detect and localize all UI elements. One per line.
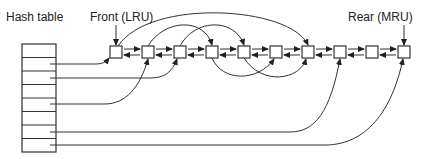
list-node (366, 46, 378, 58)
rear-label: Rear (MRU) (348, 10, 413, 24)
list-node (110, 46, 122, 58)
list-node (142, 46, 154, 58)
chain-arcs-below (212, 58, 306, 77)
list-node (206, 46, 218, 58)
hash-table-label: Hash table (6, 10, 64, 24)
lru-hash-diagram: Hash table Front (LRU) Rear (MRU) (0, 0, 447, 159)
hash-pointers (50, 58, 403, 145)
list-node (174, 46, 186, 58)
list-node (238, 46, 250, 58)
list-node (270, 46, 282, 58)
front-label: Front (LRU) (90, 10, 153, 24)
list-node (334, 46, 346, 58)
list-node (398, 46, 410, 58)
list-nodes (110, 46, 410, 58)
list-node (302, 46, 314, 58)
list-links (124, 49, 396, 55)
hash-table (22, 44, 56, 152)
